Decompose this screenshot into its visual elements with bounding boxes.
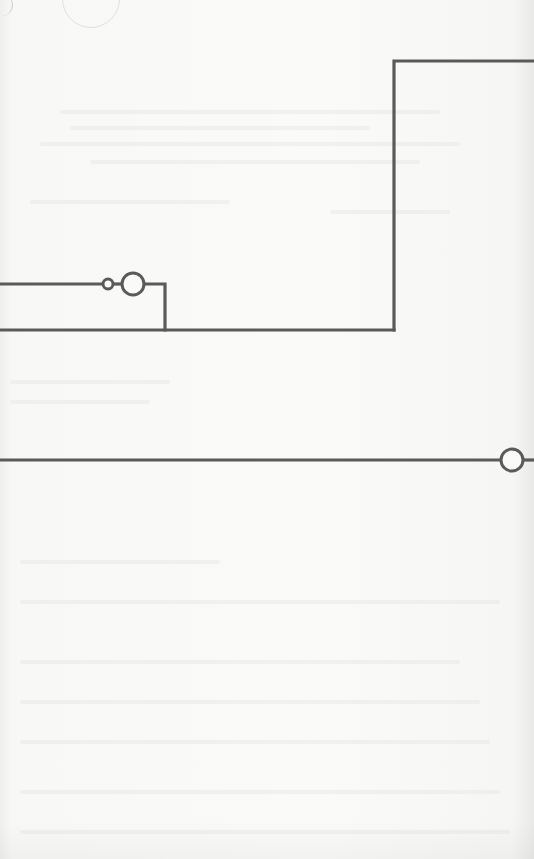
top-right-rail-wire: [394, 61, 534, 330]
scan-bottom-edge: [0, 820, 534, 859]
small-terminal-icon: [103, 279, 113, 289]
large-terminal-icon: [122, 273, 144, 295]
branch-to-lower-wire: [144, 284, 165, 330]
right-terminal-icon: [501, 449, 523, 471]
circuit-schematic: [0, 0, 534, 859]
scanned-page: [0, 0, 534, 859]
